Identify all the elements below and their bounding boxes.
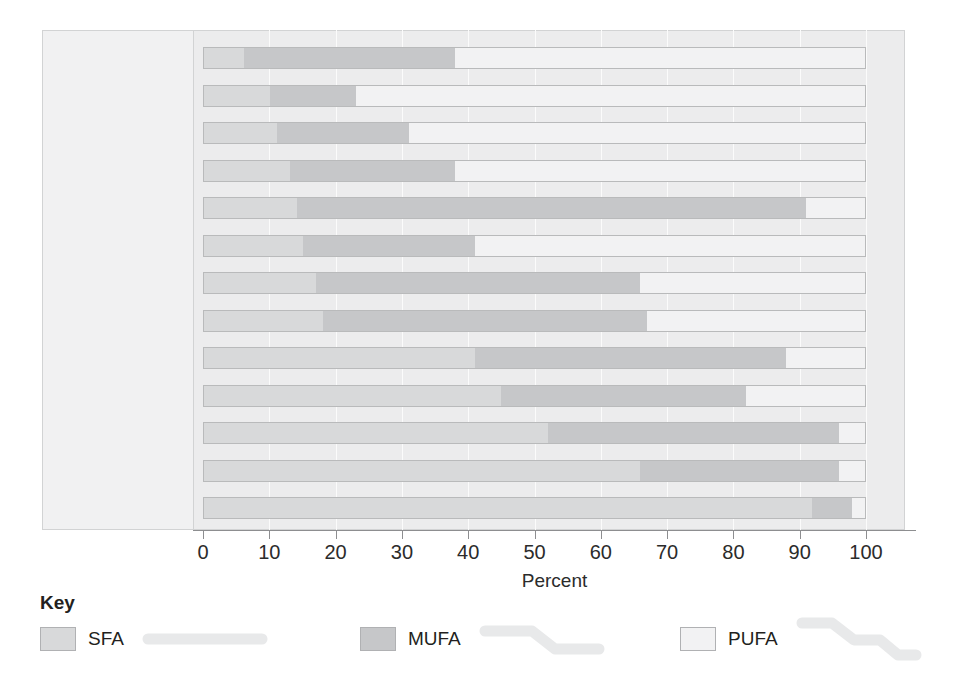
x-axis-tick-label: 10 [258, 541, 280, 564]
x-axis-tick-label: 60 [590, 541, 612, 564]
stacked-bar [203, 460, 866, 482]
bar-segment-mufa [323, 311, 647, 331]
x-axis: 0102030405060708090100 Percent [42, 530, 905, 590]
x-axis-tick-label: 0 [197, 541, 208, 564]
stacked-bar [203, 47, 866, 69]
bar-segment-sfa [204, 423, 548, 443]
bar-segment-sfa [204, 48, 244, 68]
x-axis-tick [601, 530, 602, 539]
bar-segment-mufa [640, 461, 838, 481]
bar-segment-sfa [204, 123, 277, 143]
x-axis-tick [866, 530, 867, 539]
x-axis-tick [402, 530, 403, 539]
legend-entry-sfa[interactable]: SFA [40, 622, 270, 656]
legend-glyph-wrapper [794, 611, 924, 667]
stacked-bar [203, 272, 866, 294]
legend-glyph-wrapper [140, 616, 270, 662]
bar-segment-pufa [647, 311, 865, 331]
x-axis-title: Percent [193, 570, 916, 592]
stacked-bar [203, 197, 866, 219]
bar-segment-sfa [204, 161, 290, 181]
bar-segment-sfa [204, 386, 501, 406]
x-axis-tick [468, 530, 469, 539]
bar-segment-pufa [806, 198, 865, 218]
x-axis-tick [336, 530, 337, 539]
stacked-bar [203, 85, 866, 107]
bar-segment-pufa [455, 48, 865, 68]
bar-segment-sfa [204, 86, 270, 106]
bar-segment-sfa [204, 311, 323, 331]
bar-segment-mufa [270, 86, 356, 106]
x-axis-tick-label: 40 [457, 541, 479, 564]
bar-segment-mufa [277, 123, 409, 143]
bar-segment-pufa [852, 498, 865, 518]
legend-swatch [680, 627, 716, 651]
legend-label: SFA [88, 628, 124, 650]
stacked-bar [203, 160, 866, 182]
bar-segment-sfa [204, 198, 297, 218]
bar-segment-sfa [204, 236, 303, 256]
category-label-panel [42, 30, 194, 530]
bar-segment-sfa [204, 273, 316, 293]
legend-entry-mufa[interactable]: MUFA [360, 622, 607, 656]
x-axis-tick [667, 530, 668, 539]
legend: Key SFAMUFAPUFA [40, 592, 930, 672]
x-axis-tick [269, 530, 270, 539]
x-axis-tick-label: 80 [722, 541, 744, 564]
bar-segment-mufa [303, 236, 475, 256]
bar-segment-pufa [746, 386, 865, 406]
bar-segment-mufa [475, 348, 786, 368]
x-axis-tick [203, 530, 204, 539]
stacked-bar [203, 422, 866, 444]
stacked-bar [203, 497, 866, 519]
stacked-bar [203, 310, 866, 332]
stacked-bar [203, 385, 866, 407]
single-kink-chain-icon [477, 616, 607, 662]
x-axis-tick-label: 90 [789, 541, 811, 564]
legend-label: MUFA [408, 628, 461, 650]
stacked-bar [203, 347, 866, 369]
legend-swatch [360, 627, 396, 651]
x-axis-tick [800, 530, 801, 539]
x-axis-tick-label: 50 [523, 541, 545, 564]
stacked-bar [203, 122, 866, 144]
bar-segment-mufa [244, 48, 456, 68]
bar-segment-mufa [501, 386, 746, 406]
double-kink-chain-icon [794, 611, 924, 667]
bar-segment-mufa [297, 198, 806, 218]
bar-segment-pufa [640, 273, 865, 293]
bar-segment-pufa [839, 423, 865, 443]
x-axis-tick [733, 530, 734, 539]
bar-segment-pufa [475, 236, 865, 256]
bar-segment-pufa [409, 123, 865, 143]
legend-label: PUFA [728, 628, 778, 650]
bar-segment-sfa [204, 461, 640, 481]
bar-segment-sfa [204, 348, 475, 368]
chart-plot-area: Canola oilSafflower oilSunflower oilCorn… [42, 30, 905, 530]
bar-segment-sfa [204, 498, 812, 518]
bar-segment-mufa [316, 273, 640, 293]
stacked-bar-chart-figure: Canola oilSafflower oilSunflower oilCorn… [0, 0, 953, 694]
x-axis-tick-label: 20 [324, 541, 346, 564]
bar-segment-mufa [290, 161, 455, 181]
legend-title: Key [40, 592, 75, 614]
legend-glyph-wrapper [477, 616, 607, 662]
bar-segment-pufa [356, 86, 865, 106]
bar-segment-pufa [839, 461, 865, 481]
bar-segment-mufa [812, 498, 852, 518]
legend-swatch [40, 627, 76, 651]
legend-entry-pufa[interactable]: PUFA [680, 622, 924, 656]
stacked-bar [203, 235, 866, 257]
x-axis-tick-label: 70 [656, 541, 678, 564]
x-axis-tick-label: 30 [391, 541, 413, 564]
bar-segment-pufa [786, 348, 865, 368]
x-axis-tick-label: 100 [849, 541, 882, 564]
straight-chain-icon [140, 616, 270, 662]
x-axis-line [193, 530, 916, 531]
bar-segment-mufa [548, 423, 839, 443]
x-axis-tick [535, 530, 536, 539]
bar-segment-pufa [455, 161, 865, 181]
